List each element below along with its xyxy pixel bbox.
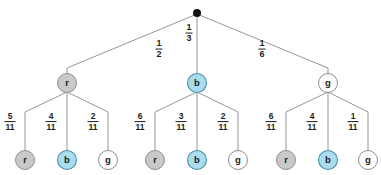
edge-root-to-r <box>67 14 197 74</box>
node-label: g <box>365 154 371 165</box>
leaf-node-g-g: g <box>359 151 378 170</box>
leaf-node-b-g: g <box>229 151 248 170</box>
level2-edges-group-1 <box>25 92 108 150</box>
node-label: g <box>235 154 241 165</box>
edge-b-to-g <box>197 92 238 150</box>
level1-edges <box>67 14 328 74</box>
leaf-node-r-g: g <box>99 151 118 170</box>
node-label: g <box>105 154 111 165</box>
node-label: r <box>153 154 157 165</box>
leaf-node-g-r: r <box>277 151 296 170</box>
leaf-node-r-r: r <box>16 151 35 170</box>
leaf-node-g-b: b <box>319 151 338 170</box>
tree-graphics: r b g r b g r b <box>0 0 381 175</box>
leaf-node-b-b: b <box>188 151 207 170</box>
edge-root-to-g <box>197 14 328 74</box>
edge-r-to-r <box>25 92 67 150</box>
edge-b-to-r <box>155 92 197 150</box>
node-label: b <box>64 154 70 165</box>
node-label: b <box>325 154 331 165</box>
node-label: b <box>194 154 200 165</box>
node-label: b <box>194 77 200 88</box>
edge-r-to-g <box>67 92 108 150</box>
root-node-dot <box>193 9 201 17</box>
node-label: r <box>23 154 27 165</box>
node-label: r <box>284 154 288 165</box>
edge-g-to-g <box>328 92 368 150</box>
level1-node-g: g <box>319 74 338 93</box>
leaf-node-r-b: b <box>58 151 77 170</box>
edge-g-to-r <box>286 92 328 150</box>
node-label: r <box>65 77 69 88</box>
probability-tree-diagram: r b g r b g r b <box>0 0 381 175</box>
node-label: g <box>325 77 331 88</box>
level1-node-r: r <box>58 74 77 93</box>
level1-node-b: b <box>188 74 207 93</box>
level2-edges-group-3 <box>286 92 368 150</box>
level2-edges-group-2 <box>155 92 238 150</box>
leaf-node-b-r: r <box>146 151 165 170</box>
